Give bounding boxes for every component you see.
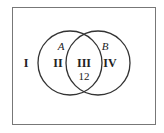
set-a-label: A [57,40,65,52]
region-ii-label: II [53,56,63,70]
region-iv-label: IV [103,56,117,70]
region-i-label: I [24,56,29,70]
set-b-label: B [102,40,109,52]
region-iii-value: 12 [79,70,90,82]
region-iii-label: III [77,56,91,70]
set-a-circle [38,31,102,95]
venn-diagram: A B I II III IV 12 [0,0,164,133]
set-b-circle [66,31,130,95]
